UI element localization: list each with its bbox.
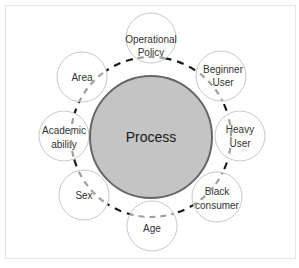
center-label: Process bbox=[126, 129, 177, 145]
node-label-line2: User bbox=[212, 77, 234, 88]
node-age: Age bbox=[127, 201, 177, 251]
node-academic-ability: Academic ability bbox=[39, 111, 89, 161]
node-sex: Sex bbox=[59, 170, 109, 220]
node-label-line1: Beginner bbox=[203, 64, 244, 75]
node-heavy-user: Heavy User bbox=[215, 111, 265, 161]
node-label-line2: User bbox=[229, 138, 251, 149]
node-black-consumer: Black consumer bbox=[192, 172, 242, 222]
node-label-line1: Operational bbox=[125, 34, 177, 45]
node-label-line1: Academic bbox=[42, 125, 86, 136]
node-label-line2: ability bbox=[51, 139, 77, 150]
node-operational-policy: Operational Policy bbox=[125, 13, 177, 63]
node-label-line2: consumer bbox=[195, 200, 240, 211]
node-label-line1: Sex bbox=[75, 190, 92, 201]
node-label-line1: Area bbox=[71, 72, 93, 83]
process-cycle-diagram: Operational Policy Beginner User Heavy U… bbox=[0, 0, 299, 268]
node-label-line1: Age bbox=[143, 223, 161, 234]
center-process-node: Process bbox=[90, 76, 212, 198]
